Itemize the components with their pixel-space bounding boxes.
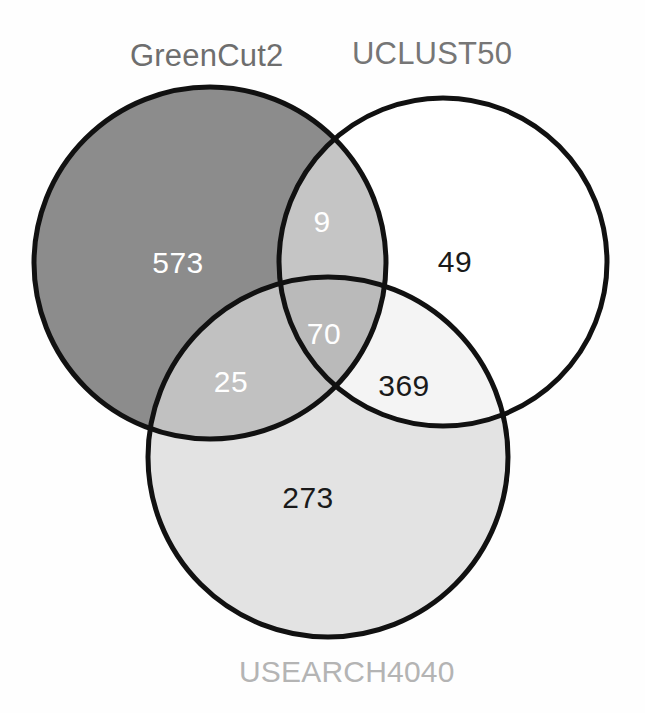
venn-diagram-figure: GreenCut2 UCLUST50 USEARCH4040 573 49 27… [0, 0, 645, 713]
region-count-greencut2-usearch4040: 25 [214, 365, 248, 399]
region-count-greencut2-uclust50: 9 [313, 205, 330, 239]
set-label-uclust50: UCLUST50 [352, 36, 512, 72]
region-count-triple-intersection: 70 [307, 317, 341, 351]
region-count-uclust50-usearch4040: 369 [378, 369, 430, 403]
region-count-greencut2-only: 573 [152, 246, 204, 280]
venn-diagram-canvas [0, 0, 645, 713]
set-label-greencut2: GreenCut2 [130, 38, 283, 74]
region-count-uclust50-only: 49 [438, 245, 472, 279]
set-label-usearch4040: USEARCH4040 [239, 655, 455, 689]
region-count-usearch4040-only: 273 [282, 481, 334, 515]
